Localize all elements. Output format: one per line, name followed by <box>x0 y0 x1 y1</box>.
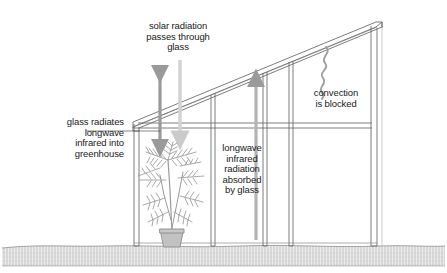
label-longwave-absorbed: longwave infrared radiation absorbed by … <box>207 143 277 196</box>
label-glass-radiates: glass radiates longwave infrared into gr… <box>8 117 124 159</box>
left-glass-wall <box>134 124 139 246</box>
label-solar-radiation: solar radiation passes through glass <box>118 21 238 53</box>
ground-band <box>2 245 445 266</box>
diagram-canvas: solar radiation passes through glass gla… <box>0 0 447 273</box>
right-glass-pillar <box>371 26 382 246</box>
potted-palm-plant <box>138 142 204 247</box>
label-convection-blocked: convection is blocked <box>296 88 376 109</box>
